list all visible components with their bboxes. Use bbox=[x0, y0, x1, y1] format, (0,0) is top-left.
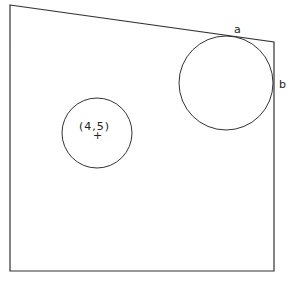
diagram-canvas: a b (4,5) + bbox=[0, 0, 295, 281]
quadrilateral-outline bbox=[10, 5, 274, 271]
tangent-label-a: a bbox=[234, 23, 241, 36]
center-marker-icon: + bbox=[93, 129, 102, 142]
tangent-label-b: b bbox=[279, 78, 286, 91]
large-circle bbox=[179, 36, 273, 130]
